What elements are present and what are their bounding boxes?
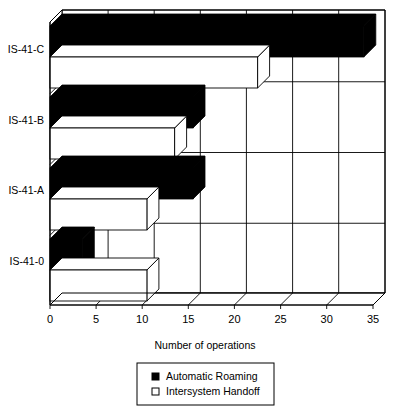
bar-top-automatic-roaming-is-41-b bbox=[50, 85, 205, 97]
category-label-is-41-c: IS-41-C bbox=[8, 43, 45, 55]
x-tick-label-5: 25 bbox=[274, 313, 286, 325]
filled-square-icon bbox=[152, 373, 159, 380]
x-tick-label-7: 35 bbox=[367, 313, 379, 325]
x-tick-label-3: 15 bbox=[182, 313, 194, 325]
bar-top-automatic-roaming-is-41-a bbox=[50, 156, 205, 168]
bar-top-intersystem-handoff-is-41-b bbox=[50, 116, 187, 128]
legend-entry-intersystem-handoff: Intersystem Handoff bbox=[152, 385, 260, 397]
bar-intersystem-handoff-is-41-b bbox=[50, 128, 175, 159]
chart-legend: Automatic Roaming Intersystem Handoff bbox=[137, 363, 274, 405]
x-tick-label-4: 20 bbox=[228, 313, 240, 325]
chart-container: 0 5 10 15 20 25 30 35 IS-41-C IS-41-B IS… bbox=[0, 0, 402, 416]
x-axis-tick-labels: 0 5 10 15 20 25 30 35 bbox=[47, 313, 379, 325]
category-label-is-41-b: IS-41-B bbox=[8, 114, 44, 126]
bar-top-intersystem-handoff-is-41-0 bbox=[50, 258, 159, 270]
bar-group-is-41-b bbox=[50, 85, 205, 159]
legend-label-intersystem-handoff: Intersystem Handoff bbox=[166, 385, 260, 397]
open-square-icon bbox=[152, 388, 159, 395]
bar-top-intersystem-handoff-is-41-c bbox=[50, 45, 270, 57]
legend-entry-automatic-roaming: Automatic Roaming bbox=[152, 370, 258, 382]
y-axis-category-labels: IS-41-C IS-41-B IS-41-A IS-41-0 bbox=[8, 43, 45, 267]
x-tick-label-1: 5 bbox=[93, 313, 99, 325]
x-tick-marks bbox=[50, 305, 373, 309]
x-tick-label-0: 0 bbox=[47, 313, 53, 325]
category-label-is-41-0: IS-41-0 bbox=[10, 255, 45, 267]
bar-intersystem-handoff-is-41-c bbox=[50, 57, 258, 88]
bar-chart-svg: 0 5 10 15 20 25 30 35 IS-41-C IS-41-B IS… bbox=[0, 0, 402, 416]
x-axis-title: Number of operations bbox=[155, 339, 256, 351]
bar-top-intersystem-handoff-is-41-a bbox=[50, 187, 159, 199]
bar-intersystem-handoff-is-41-0 bbox=[50, 270, 147, 301]
x-tick-label-6: 30 bbox=[321, 313, 333, 325]
category-label-is-41-a: IS-41-A bbox=[8, 184, 44, 196]
x-tick-label-2: 10 bbox=[136, 313, 148, 325]
bar-intersystem-handoff-is-41-a bbox=[50, 199, 147, 230]
bar-top-automatic-roaming-is-41-c bbox=[50, 14, 376, 26]
legend-label-automatic-roaming: Automatic Roaming bbox=[166, 370, 258, 382]
